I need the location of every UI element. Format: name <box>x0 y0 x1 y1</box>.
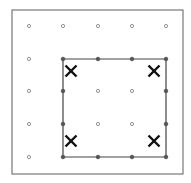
peg-grid <box>27 24 167 158</box>
peg-dot <box>96 122 99 125</box>
peg-dot <box>164 57 168 61</box>
peg-dot <box>96 57 100 61</box>
peg-dot <box>27 24 30 27</box>
peg-dot <box>164 122 168 126</box>
peg-dot <box>96 89 99 92</box>
peg-dot <box>27 155 30 158</box>
peg-dot <box>130 57 134 61</box>
peg-dot <box>61 155 65 159</box>
peg-dot <box>96 24 99 27</box>
peg-dot <box>61 89 65 93</box>
peg-dot <box>27 122 30 125</box>
x-marks <box>66 66 160 147</box>
peg-dot <box>130 89 133 92</box>
geoboard <box>0 0 191 183</box>
x-mark-icon <box>66 66 77 77</box>
peg-dot <box>130 24 133 27</box>
peg-dot <box>130 122 133 125</box>
peg-dot <box>164 24 167 27</box>
peg-dot <box>61 122 65 126</box>
peg-dot <box>61 57 65 61</box>
peg-dot <box>27 89 30 92</box>
peg-dot <box>164 155 168 159</box>
x-mark-icon <box>66 136 77 147</box>
peg-dot <box>61 24 64 27</box>
peg-dot <box>96 155 100 159</box>
x-mark-icon <box>149 66 160 77</box>
x-mark-icon <box>149 136 160 147</box>
peg-dot <box>27 57 30 60</box>
peg-dot <box>164 89 168 93</box>
peg-dot <box>130 155 134 159</box>
